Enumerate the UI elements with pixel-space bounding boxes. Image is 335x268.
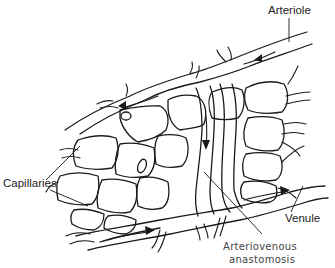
label-capillaries: Capillaries <box>3 177 57 189</box>
arteriovenous-anastomosis-vessel <box>196 84 242 216</box>
arteriole-branch-flow-arrow-icon <box>118 101 126 110</box>
label-av-anastomosis-line2: anastomosis <box>229 254 295 265</box>
arteriole-vessel <box>65 32 312 134</box>
label-venule: Venule <box>285 212 320 224</box>
anastomosis-flow-arrow-icon <box>202 140 210 150</box>
capillary-network-right <box>241 66 310 203</box>
label-av-anastomosis-line1: Arteriovenous <box>223 241 297 252</box>
venule-lower-flow-arrow-icon <box>145 226 155 235</box>
capillary-bed-diagram: Arteriole Capillaries Venule Arterioveno… <box>0 0 335 268</box>
label-arteriole: Arteriole <box>268 4 311 16</box>
flow-arrows <box>108 52 290 240</box>
